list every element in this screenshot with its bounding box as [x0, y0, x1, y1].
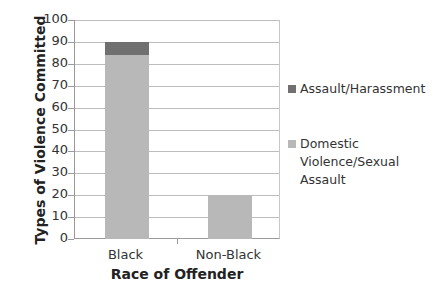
- gridline: [75, 20, 279, 21]
- legend-label: Assault/Harassment: [300, 81, 425, 96]
- x-axis-title: Race of Offender: [74, 266, 280, 282]
- bar-segment: [105, 42, 149, 55]
- legend-label: Domestic Violence/Sexual Assault: [300, 136, 399, 187]
- y-tick-label: 80: [30, 56, 68, 70]
- bar-segment: [208, 195, 252, 239]
- y-tick-label: 0: [30, 231, 68, 245]
- legend-item: Domestic Violence/Sexual Assault: [288, 135, 412, 189]
- y-tick-label: 90: [30, 34, 68, 48]
- y-tick-label: 20: [30, 187, 68, 201]
- legend-item: Assault/Harassment: [288, 80, 436, 98]
- legend-swatch-icon: [288, 85, 296, 93]
- plot-area: [74, 20, 280, 239]
- y-tick-label: 50: [30, 122, 68, 136]
- y-tick-label: 40: [30, 143, 68, 157]
- x-tick-label: Non-Black: [174, 247, 284, 262]
- y-tick-label: 10: [30, 209, 68, 223]
- stacked-bar-chart: Types of Violence Committed 010203040506…: [0, 0, 436, 297]
- x-category-tick: [177, 239, 178, 244]
- y-tick-label: 30: [30, 165, 68, 179]
- y-tick-label: 70: [30, 78, 68, 92]
- x-tick-label: Black: [71, 247, 181, 262]
- y-tick-label: 60: [30, 100, 68, 114]
- bar-segment: [105, 55, 149, 239]
- y-tick-label: 100: [30, 12, 68, 26]
- y-tick-mark: [68, 239, 74, 240]
- legend-swatch-icon: [288, 140, 296, 148]
